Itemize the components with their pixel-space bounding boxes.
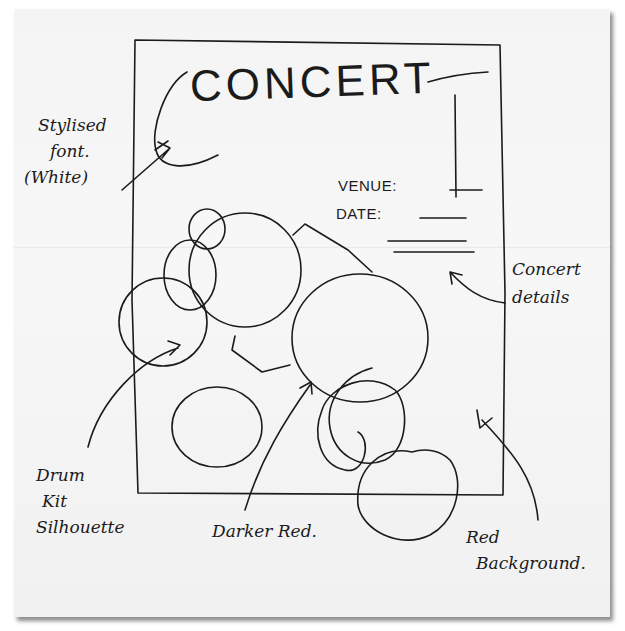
- drum-hihat-loop: [318, 368, 405, 470]
- title-t-stroke: [428, 72, 488, 197]
- annotation-line: (White): [24, 164, 107, 190]
- annotation-red-background: Red Background.: [466, 524, 586, 576]
- annotation-line: Stylised: [38, 112, 107, 138]
- venue-label: VENUE:: [338, 178, 397, 193]
- annotation-darker-red: Darker Red.: [212, 523, 317, 540]
- annotation-line: Concert: [512, 255, 581, 283]
- drum-bass-main: [292, 274, 428, 402]
- annotation-line: font.: [38, 138, 107, 164]
- darker-note-arrow: [245, 382, 312, 510]
- drum-stand-shape: [232, 224, 372, 372]
- annotation-line: Red: [466, 524, 586, 550]
- annotation-line: Drum: [36, 462, 124, 488]
- annotation-line: Background.: [466, 550, 586, 576]
- annotation-stylised-font: Stylised font. (White): [38, 112, 107, 190]
- annotation-line: Kit: [36, 488, 124, 514]
- sketch-canvas: CONCERT VENUE: DATE: Stylised font. (Whi…: [0, 0, 625, 631]
- drum-tom-left: [164, 240, 216, 310]
- poster-title: CONCERT: [189, 56, 435, 109]
- drum-snare-left: [172, 387, 262, 467]
- date-label: DATE:: [336, 206, 382, 221]
- details-note-arrow: [450, 272, 505, 303]
- background-note-arrow: [477, 410, 538, 520]
- annotation-concert-details: Concert details: [512, 255, 581, 311]
- annotation-drum-kit: Drum Kit Silhouette: [36, 462, 124, 540]
- font-note-arrow: [122, 141, 170, 190]
- annotation-line: details: [512, 283, 581, 311]
- annotation-line: Silhouette: [36, 514, 124, 540]
